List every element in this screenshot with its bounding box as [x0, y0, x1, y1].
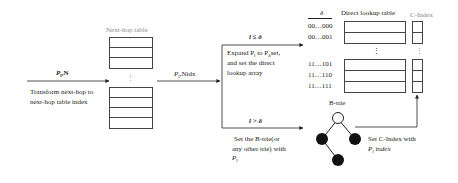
set-cindex-text-1: Set C-Index with: [368, 135, 416, 143]
expand-text-3: lookup array: [227, 69, 263, 77]
condition-gt: l > δ: [249, 117, 262, 125]
cindex-title: C-Index: [410, 11, 433, 19]
btrie-left-node: [316, 133, 328, 145]
delta-header: δ: [320, 9, 323, 17]
btrie-text-2: any other trie) with: [232, 145, 286, 153]
transform-text-2: next-hop table index: [30, 98, 88, 106]
btrie-root-node: [332, 112, 344, 124]
nexthop-dots: ⋮: [127, 74, 134, 82]
btrie-text-3: Pl: [232, 154, 238, 165]
transform-text-1: Transform next-hop to: [30, 88, 93, 96]
btrie-right-node: [349, 133, 361, 145]
delta-underline: [308, 18, 332, 19]
index-00-000: 00…000: [308, 22, 333, 30]
cindex-dots: ⋮: [416, 47, 423, 55]
direct-lookup-dots: ⋮: [373, 47, 380, 55]
set-cindex-text-2: Pl index: [368, 145, 391, 156]
index-00-001: 00…001: [308, 33, 333, 41]
btrie-text-1: Set the B-trie(or: [234, 135, 280, 143]
btrie-title: B-trie: [329, 99, 345, 107]
input-label: Pl,N: [56, 69, 68, 80]
btrie-leaf-node: [332, 154, 344, 166]
direct-lookup-title: Direct lookup table: [341, 9, 395, 17]
expand-text-2: and set the direct: [227, 59, 275, 67]
condition-le: l ≤ δ: [249, 33, 262, 41]
nexthop-table-title: Next-hop table: [106, 26, 148, 34]
index-11-101: 11…101: [308, 60, 332, 68]
index-11-110: 11…110: [308, 71, 332, 79]
index-11-111: 11…111: [308, 82, 332, 90]
mid-label: Pl,Nidx: [174, 70, 195, 81]
